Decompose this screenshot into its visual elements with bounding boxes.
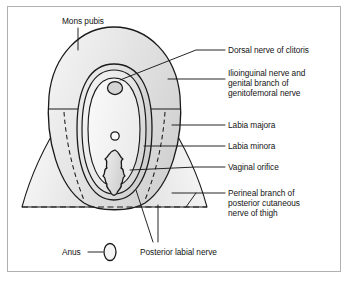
label-anus: Anus [62, 247, 81, 257]
anus-oval [104, 244, 116, 261]
clitoris-small-oval [108, 82, 123, 95]
label-mons-pubis: Mons pubis [62, 16, 104, 26]
label-dorsal-nerve-of-clitoris: Dorsal nerve of clitoris [228, 45, 309, 55]
label-perineal-line1: Perineal branch of [228, 188, 294, 198]
label-ilioinguinal-line2: genital branch of [228, 78, 289, 88]
label-vaginal-orifice: Vaginal orifice [228, 162, 279, 172]
anatomical-diagram [0, 0, 350, 281]
label-perineal-line2: posterior cutaneous [228, 198, 300, 208]
label-labia-majora: Labia majora [228, 120, 275, 130]
urethral-orifice-circle [111, 132, 119, 140]
label-perineal-line3: nerve of thigh [228, 208, 278, 218]
label-ilioinguinal-line3: genitofemoral nerve [228, 88, 300, 98]
label-posterior-labial-nerve: Posterior labial nerve [140, 247, 217, 257]
label-ilioinguinal-line1: Ilioinguinal nerve and [228, 68, 305, 78]
label-labia-minora: Labia minora [228, 141, 275, 151]
